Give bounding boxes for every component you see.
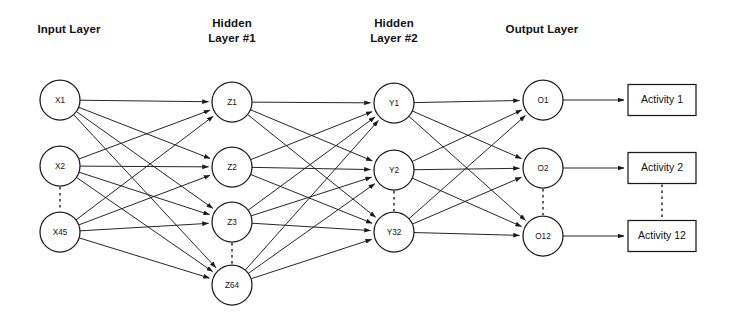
layer-title-hidden-layer-2: Hidden (374, 17, 414, 29)
edge-z1-to-y1 (252, 102, 371, 103)
edge-x45-to-z2 (79, 175, 210, 225)
edge-z64-to-y2 (248, 184, 375, 274)
node-label-o2: O2 (538, 164, 549, 173)
neural-network-canvas: Input LayerHiddenLayer #1HiddenLayer #2O… (0, 0, 729, 331)
edge-x45-to-z64 (79, 238, 209, 278)
layer-title-hidden-layer-1: Hidden (212, 17, 252, 29)
node-label-z1: Z1 (227, 98, 237, 107)
edge-x1-to-z64 (74, 115, 216, 268)
layer-title-input-layer: Input Layer (37, 23, 101, 35)
edge-z2-to-y2 (252, 167, 371, 169)
node-label-z64: Z64 (225, 281, 240, 290)
output-box-activity-1[interactable]: Activity 1 (628, 85, 696, 116)
node-label-o1: O1 (538, 96, 549, 105)
node-z1[interactable]: Z1 (212, 82, 252, 122)
edge-z2-to-y1 (251, 112, 373, 160)
edge-x2-to-z2 (80, 166, 209, 167)
node-label-x2: X2 (55, 162, 65, 171)
output-box-label-activity-12: Activity 12 (638, 229, 686, 241)
node-y2[interactable]: Y2 (374, 150, 414, 190)
node-o1[interactable]: O1 (523, 80, 563, 120)
node-x2[interactable]: X2 (40, 146, 80, 186)
edge-x45-to-z1 (76, 116, 213, 220)
layer-title-output-layer: Output Layer (506, 23, 579, 35)
output-box-activity-2[interactable]: Activity 2 (628, 153, 696, 184)
node-label-x1: X1 (55, 96, 65, 105)
output-box-label-activity-2: Activity 2 (641, 161, 683, 173)
output-box-label-activity-1: Activity 1 (641, 93, 683, 105)
ellipsis-dividers-group (60, 187, 543, 264)
node-label-x45: X45 (53, 228, 68, 237)
edge-y1-to-o1 (414, 100, 520, 102)
node-label-o12: O12 (535, 232, 551, 241)
node-z3[interactable]: Z3 (212, 202, 252, 242)
node-label-y32: Y32 (387, 228, 402, 237)
node-label-z2: Z2 (227, 163, 237, 172)
edge-y32-to-o1 (409, 116, 525, 219)
edge-x2-to-z1 (79, 110, 210, 159)
node-o12[interactable]: O12 (523, 216, 563, 256)
edge-z1-to-y32 (248, 115, 376, 218)
node-y32[interactable]: Y32 (374, 212, 414, 252)
edge-x1-to-z1 (80, 100, 209, 101)
layer-title-hidden-layer-2: Layer #2 (370, 32, 417, 44)
node-z64[interactable]: Z64 (212, 265, 252, 305)
node-label-y1: Y1 (389, 99, 399, 108)
node-y1[interactable]: Y1 (374, 83, 414, 123)
neuron-nodes-group: X1X2X45Z1Z2Z3Z64Y1Y2Y32O1O2O12 (40, 80, 563, 305)
connection-edges-group (74, 100, 526, 279)
edge-z3-to-y32 (252, 223, 371, 230)
node-x45[interactable]: X45 (40, 212, 80, 252)
edge-y32-to-o12 (414, 233, 520, 236)
activity-output-boxes-group: Activity 1Activity 2Activity 12 (563, 85, 696, 252)
node-o2[interactable]: O2 (523, 148, 563, 188)
node-label-z3: Z3 (227, 218, 237, 227)
neural-network-diagram: Input LayerHiddenLayer #1HiddenLayer #2O… (0, 0, 729, 331)
node-label-y2: Y2 (389, 166, 399, 175)
layer-headers-group: Input LayerHiddenLayer #1HiddenLayer #2O… (37, 17, 578, 44)
edge-x2-to-z3 (79, 172, 210, 215)
node-x1[interactable]: X1 (40, 80, 80, 120)
layer-title-hidden-layer-1: Layer #1 (208, 32, 256, 44)
node-z2[interactable]: Z2 (212, 147, 252, 187)
output-box-activity-12[interactable]: Activity 12 (628, 221, 696, 252)
